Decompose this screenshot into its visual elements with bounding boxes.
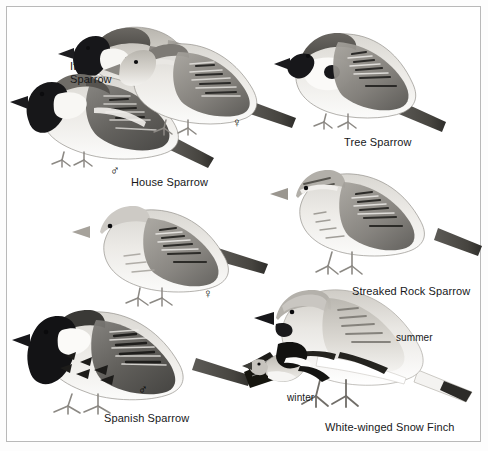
- label-winter: winter: [287, 391, 314, 404]
- symbol-female-spanish-sparrow: ♀: [203, 287, 213, 300]
- label-italian-sparrow: Italian Sparrow: [70, 60, 112, 86]
- symbol-male-spanish-sparrow: ♂: [138, 383, 148, 396]
- figure-spanish-sparrow-male: [12, 310, 252, 414]
- label-tree-sparrow: Tree Sparrow: [344, 136, 411, 149]
- label-spanish-sparrow: Spanish Sparrow: [104, 412, 189, 425]
- symbol-female-house-sparrow: ♀: [232, 116, 242, 129]
- label-streaked-rock-sparrow: Streaked Rock Sparrow: [352, 285, 470, 298]
- symbol-male-house-sparrow: ♂: [110, 164, 120, 177]
- label-white-winged-snow-finch: White-winged Snow Finch: [325, 421, 454, 434]
- illustration-plate: Italian Sparrow House Sparrow Tree Sparr…: [0, 0, 488, 451]
- label-summer: summer: [396, 331, 433, 344]
- figure-tree-sparrow: [274, 33, 446, 132]
- figure-spanish-sparrow-female: [72, 206, 268, 306]
- label-house-sparrow: House Sparrow: [131, 176, 208, 189]
- figure-streaked-rock-sparrow: [270, 170, 482, 274]
